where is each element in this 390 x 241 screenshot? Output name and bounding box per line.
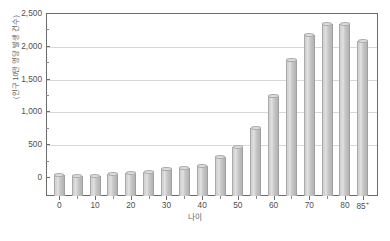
x-axis-tick <box>184 196 185 199</box>
y-axis-tick <box>46 111 50 112</box>
x-axis-tick-label: 40 <box>198 200 207 210</box>
y-axis-tick <box>46 79 50 80</box>
x-axis-title: 나이 <box>0 211 390 222</box>
x-axis-tick-label: 0 <box>57 200 62 210</box>
x-axis-tick-label: 50 <box>233 200 242 210</box>
y-axis-tick <box>46 144 50 145</box>
x-axis-tick <box>77 196 78 199</box>
x-axis-tick <box>220 196 221 199</box>
x-axis-tick <box>291 196 292 199</box>
y-axis-minor-tick <box>46 161 49 162</box>
y-axis-tick <box>46 13 50 14</box>
y-axis-minor-tick <box>46 62 49 63</box>
x-axis-tick <box>149 196 150 199</box>
x-axis-tick-label: 20 <box>126 200 135 210</box>
y-axis-minor-tick <box>46 128 49 129</box>
x-axis-tick-label: 85+ <box>356 200 369 211</box>
y-axis-tick <box>46 46 50 47</box>
bar-chart: (인구 10만 명당 발생 건수) 2,5002,0001,5001,00050… <box>0 0 390 241</box>
x-axis-tick-label: 30 <box>162 200 171 210</box>
x-axis-tick-label: 10 <box>90 200 99 210</box>
y-axis-tick <box>46 177 50 178</box>
x-axis-tick-label: 70 <box>305 200 314 210</box>
x-axis-tick <box>256 196 257 199</box>
y-axis-minor-tick <box>46 29 49 30</box>
x-axis-tick <box>113 196 114 199</box>
y-axis-minor-tick <box>46 95 49 96</box>
x-axis-tick-label: 60 <box>269 200 278 210</box>
x-axis-tick-label: 80 <box>340 200 349 210</box>
x-axis-tick <box>327 196 328 199</box>
x-axis-labels: 0102030405060708085+ <box>0 0 390 241</box>
